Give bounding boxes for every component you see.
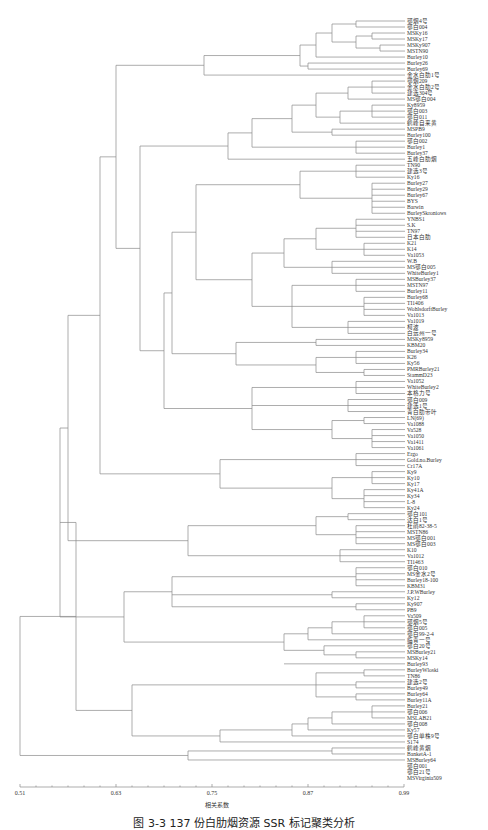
x-tick-label: 0.87 xyxy=(303,790,314,796)
x-tick-label: 0.75 xyxy=(207,790,218,796)
figure-caption: 图 3-3 137 份白肋烟资源 SSR 标记聚类分析 xyxy=(0,814,488,830)
leaf-label: MSVirginia509 xyxy=(407,775,442,781)
x-axis-title: 相关系数 xyxy=(205,800,229,809)
x-tick-label: 0.63 xyxy=(111,790,122,796)
x-tick-label: 0.51 xyxy=(15,790,26,796)
x-tick-label: 0.99 xyxy=(399,790,410,796)
